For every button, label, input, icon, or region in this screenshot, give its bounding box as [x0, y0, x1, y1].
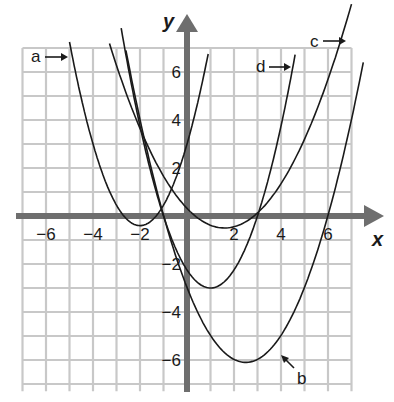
- y-tick-label: 6: [172, 63, 181, 82]
- curve-label-a: a: [31, 47, 41, 66]
- x-tick-label: −6: [36, 225, 55, 244]
- x-tick-label: −2: [130, 225, 149, 244]
- arrowhead-a: [61, 53, 68, 61]
- curves: [70, 4, 364, 362]
- y-axis-label: y: [162, 10, 175, 32]
- x-axis-arrow: [364, 205, 384, 227]
- y-tick-label: −6: [162, 351, 181, 370]
- arrowhead-c: [339, 37, 346, 45]
- curve-label-d: d: [256, 57, 265, 76]
- curve-label-c: c: [310, 32, 319, 51]
- x-tick-label: 4: [276, 225, 285, 244]
- curve-label-b: b: [297, 369, 306, 388]
- y-tick-label: −4: [162, 303, 181, 322]
- x-axis-label: x: [371, 228, 384, 250]
- y-tick-label: 4: [172, 111, 181, 130]
- arrowhead-d: [284, 63, 291, 71]
- y-axis-arrow: [176, 14, 198, 32]
- x-tick-label: −4: [83, 225, 102, 244]
- parabola-graph: x y −6−4−2246642−2−4−6 a d c b: [0, 0, 394, 402]
